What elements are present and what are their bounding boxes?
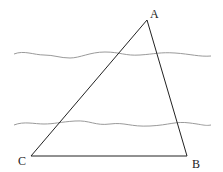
lower-wavy-line xyxy=(14,121,211,126)
vertex-label-a: A xyxy=(150,8,159,20)
vertex-label-b: B xyxy=(192,158,200,170)
diagram-canvas xyxy=(0,0,223,172)
triangle-abc xyxy=(31,20,187,156)
vertex-label-c: C xyxy=(18,155,26,167)
upper-wavy-line xyxy=(14,52,211,58)
